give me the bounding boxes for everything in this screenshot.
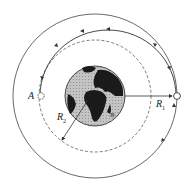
label-r1: R1 [156, 99, 165, 111]
satellite-at-outer [174, 93, 181, 100]
orbit-transfer-diagram: A B R1 R2 [0, 0, 189, 189]
label-r2: R2 [57, 112, 66, 124]
label-point-a: A [28, 91, 34, 101]
label-point-b: B [110, 112, 114, 119]
satellite-at-A [38, 93, 44, 99]
